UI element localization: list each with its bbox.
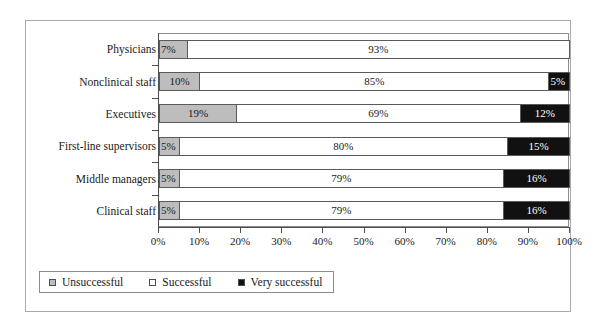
bar-row[interactable]: 5%80%15% — [159, 137, 570, 156]
chart-legend: UnsuccessfulSuccessfulVery successful — [39, 271, 334, 293]
plot-wrapper: PhysiciansNonclinical staffExecutivesFir… — [26, 21, 572, 313]
bar-segment-value: 79% — [331, 173, 351, 184]
category-label-first-line-supervisors: First-line supervisors — [0, 140, 160, 152]
value-tick — [240, 227, 241, 233]
value-tick-label: 10% — [176, 235, 222, 247]
bar-segment-unsuccessful[interactable]: 5% — [159, 201, 180, 220]
value-tick-label: 70% — [423, 235, 469, 247]
value-tick-label: 50% — [341, 235, 387, 247]
bar-segment-value: 85% — [364, 76, 384, 87]
chart-figure: PhysiciansNonclinical staffExecutivesFir… — [25, 20, 571, 312]
legend-item[interactable]: Very successful — [238, 276, 323, 288]
legend-item[interactable]: Successful — [149, 276, 211, 288]
bar-row[interactable]: 19%69%12% — [159, 104, 570, 123]
bar-segment-value: 79% — [331, 205, 351, 216]
bar-segment-value: 5% — [161, 173, 176, 184]
value-tick — [199, 227, 200, 233]
bar-segment-very-successful[interactable]: 16% — [504, 169, 570, 188]
bar-segment-unsuccessful[interactable]: 19% — [159, 104, 237, 123]
value-tick-label: 0% — [135, 235, 181, 247]
value-tick-label: 100% — [546, 235, 592, 247]
value-tick — [528, 227, 529, 233]
category-label-nonclinical-staff: Nonclinical staff — [0, 76, 160, 88]
bar-segment-successful[interactable]: 79% — [180, 201, 505, 220]
value-tick-label: 90% — [505, 235, 551, 247]
plot-area — [158, 33, 569, 227]
category-label-middle-managers: Middle managers — [0, 173, 160, 185]
bar-segment-unsuccessful[interactable]: 5% — [159, 169, 180, 188]
bar-segment-value: 16% — [527, 173, 547, 184]
bar-segment-value: 10% — [169, 76, 189, 87]
value-tick-label: 40% — [299, 235, 345, 247]
bar-segment-value: 19% — [188, 108, 208, 119]
black-square-icon — [238, 279, 245, 286]
bar-segment-value: 93% — [368, 44, 388, 55]
bar-row[interactable]: 7%93% — [159, 40, 570, 59]
bar-segment-very-successful[interactable]: 5% — [549, 72, 570, 91]
value-tick — [487, 227, 488, 233]
category-tick — [152, 130, 159, 131]
value-tick — [322, 227, 323, 233]
value-tick — [281, 227, 282, 233]
legend-label: Unsuccessful — [62, 276, 123, 288]
value-tick — [569, 227, 570, 233]
legend-label: Very successful — [251, 276, 323, 288]
category-label-physicians: Physicians — [0, 43, 160, 55]
bar-segment-unsuccessful[interactable]: 5% — [159, 137, 180, 156]
bar-segment-value: 15% — [529, 141, 549, 152]
category-tick — [152, 65, 159, 66]
bar-row[interactable]: 10%85%5% — [159, 72, 570, 91]
bar-segment-value: 5% — [550, 76, 565, 87]
bar-segment-very-successful[interactable]: 16% — [504, 201, 570, 220]
value-tick-label: 60% — [382, 235, 428, 247]
bar-row[interactable]: 5%79%16% — [159, 169, 570, 188]
value-tick-label: 20% — [217, 235, 263, 247]
bar-row[interactable]: 5%79%16% — [159, 201, 570, 220]
value-tick-label: 30% — [258, 235, 304, 247]
value-tick — [405, 227, 406, 233]
category-label-clinical-staff: Clinical staff — [0, 205, 160, 217]
white-square-icon — [149, 279, 156, 286]
category-tick — [152, 98, 159, 99]
value-tick — [364, 227, 365, 233]
gray-square-icon — [49, 279, 56, 286]
category-label-executives: Executives — [0, 108, 160, 120]
bar-segment-very-successful[interactable]: 12% — [521, 104, 570, 123]
bar-segment-value: 16% — [527, 205, 547, 216]
category-tick — [152, 195, 159, 196]
category-tick — [152, 162, 159, 163]
bar-segment-successful[interactable]: 69% — [237, 104, 521, 123]
bar-segment-value: 12% — [535, 108, 555, 119]
bar-segment-unsuccessful[interactable]: 10% — [159, 72, 200, 91]
bar-segment-value: 7% — [161, 44, 176, 55]
bar-segment-successful[interactable]: 85% — [200, 72, 549, 91]
value-tick — [158, 227, 159, 233]
bar-segment-unsuccessful[interactable]: 7% — [159, 40, 188, 59]
bar-segment-value: 5% — [161, 141, 176, 152]
bar-segment-successful[interactable]: 93% — [188, 40, 570, 59]
bar-segment-value: 69% — [368, 108, 388, 119]
bar-segment-very-successful[interactable]: 15% — [508, 137, 570, 156]
bar-segment-successful[interactable]: 80% — [180, 137, 509, 156]
legend-label: Successful — [162, 276, 211, 288]
value-tick — [446, 227, 447, 233]
bar-segment-value: 5% — [161, 205, 176, 216]
value-tick-label: 80% — [464, 235, 510, 247]
bar-segment-successful[interactable]: 79% — [180, 169, 505, 188]
bar-segment-value: 80% — [333, 141, 353, 152]
legend-item[interactable]: Unsuccessful — [49, 276, 123, 288]
